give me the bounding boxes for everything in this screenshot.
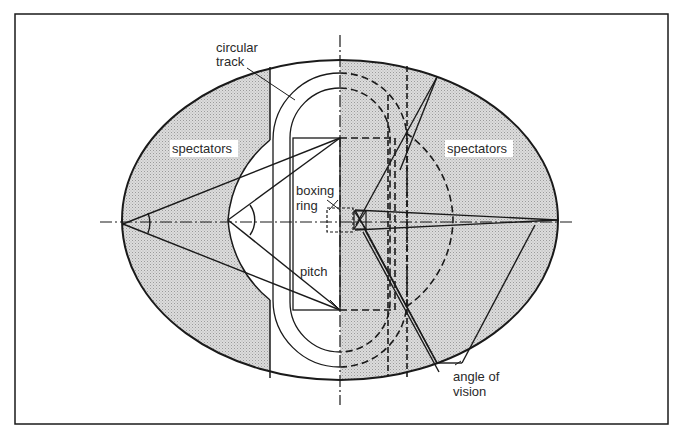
label-pitch: pitch <box>300 264 327 279</box>
svg-text:angle of: angle of <box>453 369 500 384</box>
svg-text:boxing: boxing <box>296 183 334 198</box>
label-spectators-right: spectators <box>445 140 513 157</box>
label-spectators-left: spectators <box>170 140 238 157</box>
svg-text:circular: circular <box>216 40 259 55</box>
svg-text:vision: vision <box>453 384 486 399</box>
svg-text:ring: ring <box>296 198 318 213</box>
svg-text:track: track <box>216 54 245 69</box>
stadium-diagram: circular track spectators spectators box… <box>0 0 673 440</box>
svg-text:pitch: pitch <box>300 264 327 279</box>
svg-text:spectators: spectators <box>447 141 507 156</box>
svg-text:spectators: spectators <box>172 141 232 156</box>
